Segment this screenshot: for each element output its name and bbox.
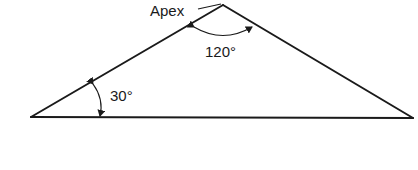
base-line: [31, 117, 413, 118]
apex-angle-arc: [194, 27, 252, 36]
apex-angle-label: 120°: [205, 43, 236, 60]
right-side-line: [223, 5, 413, 118]
apex-label: Apex: [150, 2, 185, 19]
base-angle-arc: [93, 84, 101, 116]
diagram-svg: Apex 120° 30°: [0, 0, 418, 170]
base-angle-label: 30°: [110, 87, 133, 104]
triangle-diagram: Apex 120° 30°: [0, 0, 418, 170]
